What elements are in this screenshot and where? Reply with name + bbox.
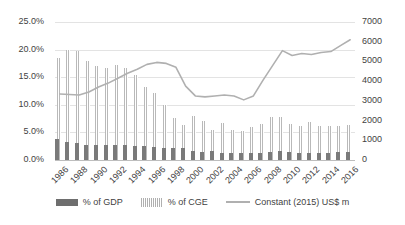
- y-axis-left-tick: 5.0%: [23, 127, 50, 136]
- legend-swatch-gdp-icon: [56, 199, 78, 206]
- y-axis-left-tick: 0.0%: [23, 155, 50, 164]
- legend-label-constant-usd: Constant (2015) US$ m: [255, 197, 350, 207]
- y-axis-right-tick: 3000: [362, 96, 382, 105]
- legend-item-gdp: % of GDP: [56, 197, 123, 207]
- legend-swatch-line-icon: [226, 201, 250, 203]
- y-axis-right-tick: 1000: [362, 135, 382, 144]
- legend-swatch-cge-icon: [141, 198, 163, 207]
- y-axis-right-tick: 0: [362, 155, 367, 164]
- line-path: [60, 40, 350, 100]
- axis-baseline: [55, 160, 355, 161]
- legend-item-constant-usd: Constant (2015) US$ m: [226, 197, 350, 207]
- legend-item-cge: % of CGE: [141, 197, 208, 207]
- y-axis-left-tick: 10.0%: [18, 100, 50, 109]
- legend-label-cge: % of CGE: [168, 197, 208, 207]
- legend-label-gdp: % of GDP: [83, 197, 123, 207]
- y-axis-right-tick: 2000: [362, 116, 382, 125]
- y-axis-left-tick: 15.0%: [18, 72, 50, 81]
- y-axis-right-tick: 4000: [362, 76, 382, 85]
- plot-area: [55, 22, 355, 160]
- chart-legend: % of GDP % of CGE Constant (2015) US$ m: [0, 191, 405, 213]
- y-axis-right-tick: 7000: [362, 17, 382, 26]
- y-axis-left-tick: 25.0%: [18, 17, 50, 26]
- y-axis-right-tick: 5000: [362, 56, 382, 65]
- line-series-constant-usd: [55, 22, 355, 160]
- chart-container: 1986198819901992199419961998200020022004…: [0, 0, 405, 225]
- y-axis-right-tick: 6000: [362, 37, 382, 46]
- y-axis-left-tick: 20.0%: [18, 45, 50, 54]
